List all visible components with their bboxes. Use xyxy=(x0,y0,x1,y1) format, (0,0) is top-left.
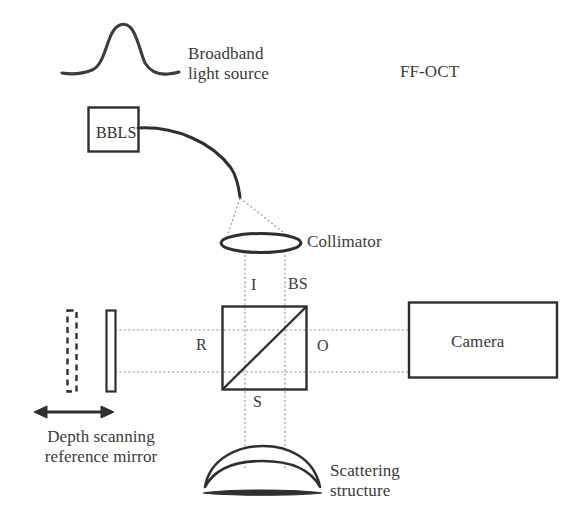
reference-port-label: R xyxy=(196,336,207,355)
bbls-label: BBLS xyxy=(96,124,136,143)
depth-scanning-reference-mirror-label: Depth scanning reference mirror xyxy=(12,427,190,467)
object-port-label: O xyxy=(317,337,329,356)
ff-oct-title-label: FF-OCT xyxy=(400,62,459,82)
beamsplitter-label: BS xyxy=(288,275,308,294)
sample-port-label: S xyxy=(253,393,262,412)
scattering-structure-lens xyxy=(205,446,320,487)
ff-oct-setup-diagram: Broadband light source FF-OCT BBLS Colli… xyxy=(0,0,569,528)
broadband-light-source-label: Broadband light source xyxy=(188,44,269,84)
depth-scan-arrow xyxy=(34,406,114,418)
scattering-structure-label: Scattering structure xyxy=(330,461,400,501)
beamsplitter-diagonal xyxy=(223,307,306,389)
input-port-label: I xyxy=(251,276,256,295)
reference-mirror-scanned-position xyxy=(68,311,77,392)
collimator-label: Collimator xyxy=(307,232,382,252)
collimator-lens xyxy=(221,234,301,253)
scattering-structure-base-line xyxy=(203,490,322,495)
optical-fiber xyxy=(138,128,240,197)
ray-diverging-left xyxy=(226,198,240,240)
camera-label: Camera xyxy=(451,332,504,352)
broadband-spectrum-curve xyxy=(62,24,179,74)
reference-mirror xyxy=(107,311,116,392)
